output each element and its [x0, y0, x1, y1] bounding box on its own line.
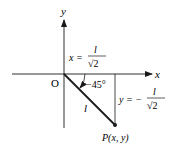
- x-equation: x = l √2: [68, 44, 106, 69]
- x-axis-label: x: [154, 68, 160, 80]
- point-p: [113, 123, 117, 127]
- origin-label: O: [51, 77, 59, 89]
- segment-label: l: [84, 102, 87, 114]
- svg-text:√2: √2: [147, 100, 158, 111]
- y-axis-label: y: [60, 5, 66, 17]
- y-equation: y = − l √2: [118, 86, 165, 111]
- svg-text:l: l: [153, 86, 156, 97]
- svg-text:y = −: y = −: [118, 94, 142, 105]
- svg-text:x =: x =: [68, 52, 83, 63]
- coordinate-diagram: y x O l −45° P(x, y) x = l √2 y = − l √2: [0, 0, 174, 147]
- angle-label: −45°: [86, 79, 106, 90]
- svg-text:√2: √2: [88, 58, 99, 69]
- point-label: P(x, y): [101, 132, 129, 144]
- angle-arc: [80, 74, 85, 88]
- svg-text:l: l: [94, 44, 97, 55]
